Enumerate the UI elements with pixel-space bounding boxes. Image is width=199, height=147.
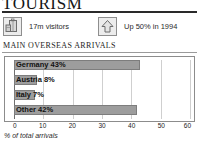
gridline <box>190 60 191 119</box>
x-tick-label: 60 <box>184 122 191 130</box>
axis-caption: % of total arrivals <box>4 131 58 140</box>
bar-label: Italy 7% <box>16 90 44 100</box>
bar-label: Other 42% <box>16 105 53 115</box>
bar-row: Italy 7% <box>14 90 190 100</box>
x-tick-label: 40 <box>128 122 135 130</box>
plot-area: Germany 43%Austria 8%Italy 7%Other 42% <box>14 60 190 119</box>
stat-visitors-label: 17m visitors <box>29 22 69 31</box>
bar-label: Austria 8% <box>16 75 55 85</box>
bar-series: Germany 43%Austria 8%Italy 7%Other 42% <box>14 60 190 119</box>
x-tick-label: 50 <box>158 122 165 130</box>
x-tick-label: 30 <box>98 122 105 130</box>
luggage-icon <box>3 17 22 36</box>
x-tick-label: 20 <box>69 122 76 130</box>
stat-strip: 17m visitors Up 50% in 1994 <box>0 15 199 38</box>
stat-growth: Up 50% in 1994 <box>98 15 177 38</box>
x-tick-label: 10 <box>39 122 46 130</box>
bar-row: Germany 43% <box>14 60 190 70</box>
bar-chart: Germany 43%Austria 8%Italy 7%Other 42% <box>4 56 195 122</box>
section-divider <box>2 52 197 53</box>
x-tick-label: 0 <box>13 122 17 130</box>
bar-row: Austria 8% <box>14 75 190 85</box>
title-divider <box>2 11 197 13</box>
stat-growth-label: Up 50% in 1994 <box>124 22 177 31</box>
stat-visitors: 17m visitors <box>3 15 69 38</box>
section-heading: MAIN OVERSEAS ARRIVALS <box>3 41 116 51</box>
bar-row: Other 42% <box>14 105 190 115</box>
up-arrow-icon <box>98 17 117 36</box>
bar-label: Germany 43% <box>16 60 66 70</box>
